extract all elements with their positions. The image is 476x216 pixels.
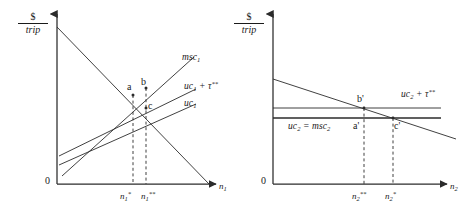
msc1-curve — [62, 57, 194, 176]
point-label-c-prime: c' — [394, 121, 400, 131]
point-marker-b-prime — [363, 107, 366, 110]
point-marker-c-prime — [392, 117, 395, 120]
msc1-label: msc1 — [182, 53, 200, 63]
uc1-curve — [59, 104, 196, 165]
left-origin-label: 0 — [45, 176, 50, 186]
left-x-axis-label: n1 — [219, 182, 227, 191]
point-label-b: b — [141, 77, 146, 87]
point-label-c: c — [148, 101, 152, 111]
point-marker-a — [132, 94, 135, 97]
xtick-n2-starstar: n2** — [352, 192, 366, 201]
right-y-axis-label: $ trip — [234, 12, 264, 35]
right-origin-label: 0 — [261, 176, 266, 186]
uc1-plus-tau-curve — [59, 89, 196, 156]
left-y-axis-label: $ trip — [18, 12, 48, 35]
uc1-label: uc1 — [184, 99, 197, 109]
xtick-n1-starstar: n1** — [141, 192, 155, 201]
xtick-n1-star: n1* — [120, 192, 131, 201]
uc2-equals-msc2-label: uc2 = msc2 — [288, 122, 330, 132]
xtick-n2-star: n2* — [385, 192, 396, 201]
right-panel-droplines — [364, 108, 393, 184]
uc2-plus-tau-label: uc2 + τ** — [401, 90, 435, 100]
right-x-axis-label: n2 — [450, 182, 458, 191]
uc1-plus-tau-label: uc1 + τ** — [184, 82, 218, 92]
figure-container: $ trip 0 n1 msc1 uc1 + τ** uc1 a b c n1*… — [0, 0, 476, 216]
point-label-a: a — [127, 82, 131, 92]
point-label-b-prime: b' — [357, 94, 364, 104]
point-label-a-prime: a' — [353, 121, 359, 131]
